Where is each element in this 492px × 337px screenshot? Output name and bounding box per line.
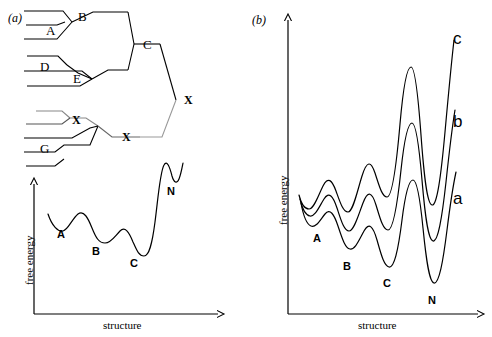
panel-a-energy-curve [48,163,183,256]
tree-node-a: A [46,24,55,37]
panel-tag-a: (a) [8,12,22,24]
panel-b-curve-c [299,40,454,212]
panel-a-well-n: N [167,186,175,197]
panel-b-curve-label-b: b [453,113,462,130]
figure-root: (a) (b) A B C D E G X X X A B C N free e… [0,0,492,337]
panel-b-axes [288,20,478,314]
panel-a-ylabel: free energy [24,235,35,285]
panel-b-well-a: A [313,233,321,244]
tree-node-d: D [40,60,49,73]
tree-node-x-upper: X [72,114,81,126]
tree-node-c: C [143,38,152,51]
panel-b-well-n: N [428,295,436,306]
panel-a-axes [34,184,218,314]
panel-b-curve-b [300,110,455,241]
panel-b-curve-a [301,172,456,283]
panel-b-curve-label-c: c [453,30,462,47]
panel-b-xlabel: structure [358,320,396,331]
panel-a-xlabel: structure [103,320,141,331]
panel-b-well-c: C [383,278,391,289]
panel-b-well-b: B [343,261,351,272]
panel-a-well-c: C [130,258,138,269]
panel-a-well-b: B [92,246,100,257]
tree-node-x-root: X [184,94,193,106]
panel-b-ylabel: free energy [278,175,289,225]
tree-node-x-middle: X [122,131,131,143]
tree-node-e: E [73,72,81,85]
panel-b-curve-label-a: a [453,190,462,207]
panel-tag-b: (b) [252,14,266,26]
panel-a-well-a: A [57,229,65,240]
figure-vector-layer [0,0,492,337]
tree-node-b: B [78,10,87,23]
tree-node-g: G [40,142,49,155]
